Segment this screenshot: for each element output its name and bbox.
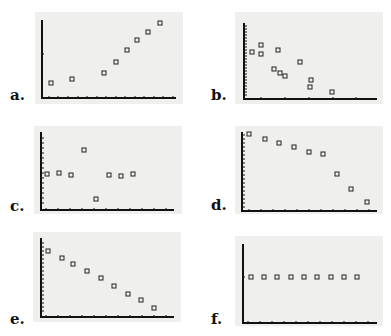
panel-c: c.	[0, 112, 196, 224]
scatter-plot-f	[195, 224, 391, 336]
panel-label-d: d.	[211, 196, 227, 214]
panel-label-a: a.	[10, 86, 25, 104]
scatter-plot-c	[0, 112, 196, 224]
panel-d: d.	[195, 112, 391, 224]
scatter-plot-a	[0, 0, 196, 112]
panel-label-c: c.	[10, 197, 24, 215]
panel-label-b: b.	[211, 86, 227, 104]
panel-a: a.	[0, 0, 196, 112]
panel-label-f: f.	[211, 310, 222, 328]
panel-e: e.	[0, 224, 196, 336]
panel-b: b.	[195, 0, 391, 112]
scatter-plot-e	[0, 224, 196, 336]
panel-f: f.	[195, 224, 391, 336]
panel-label-e: e.	[10, 310, 25, 328]
